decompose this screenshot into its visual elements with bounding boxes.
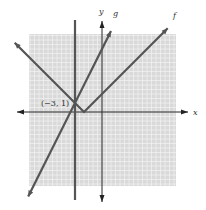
f-label: f — [172, 11, 178, 20]
y-axis-arrow-down — [100, 195, 105, 202]
x-axis-arrow-right — [181, 110, 188, 115]
x-axis-label: x — [193, 108, 198, 117]
y-axis-arrow-up — [100, 21, 105, 28]
y-axis-label: y — [98, 7, 104, 16]
graph: x y g f (−3, 1) — [0, 0, 206, 210]
x-axis-arrow-left — [17, 110, 24, 115]
point-annotation: (−3, 1) — [41, 99, 69, 108]
g-label: g — [113, 9, 118, 18]
